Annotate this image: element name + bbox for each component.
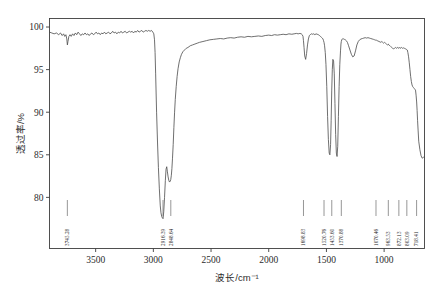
y-tick-label: 100: [29, 22, 44, 32]
peak-label: 2916.39: [160, 228, 166, 246]
peak-label: 1520.76: [321, 228, 327, 246]
peak-label: 1070.46: [373, 228, 379, 246]
x-tick-label: 2000: [259, 255, 278, 265]
peak-label: 872.13: [396, 231, 402, 246]
x-tick-label: 2500: [202, 255, 221, 265]
x-axis-title: 波长/cm⁻¹: [215, 272, 258, 283]
y-tick-label: 95: [34, 65, 44, 75]
y-tick-label: 80: [34, 193, 44, 203]
peak-label: 803.09: [404, 231, 410, 246]
x-tick-label: 1500: [317, 255, 336, 265]
y-tick-label: 90: [34, 108, 44, 118]
x-tick-label: 3000: [144, 255, 163, 265]
spectrum-plot: 80859095100 350030002500200015001000 374…: [0, 0, 447, 292]
peak-label: 2848.64: [168, 228, 174, 246]
peak-label: 1370.88: [338, 228, 344, 246]
x-tick-label: 3500: [86, 255, 105, 265]
ir-spectrum-chart: 80859095100 350030002500200015001000 374…: [0, 0, 447, 292]
peak-label: 1698.83: [300, 228, 306, 246]
peak-label: 718.41: [413, 231, 419, 246]
y-tick-label: 85: [34, 150, 44, 160]
peak-label: 3745.28: [64, 228, 70, 246]
peak-label: 963.53: [385, 231, 391, 246]
peak-label: 1453.60: [329, 228, 335, 246]
x-tick-label: 1000: [375, 255, 394, 265]
y-axis-title: 透过率/%: [15, 112, 26, 154]
